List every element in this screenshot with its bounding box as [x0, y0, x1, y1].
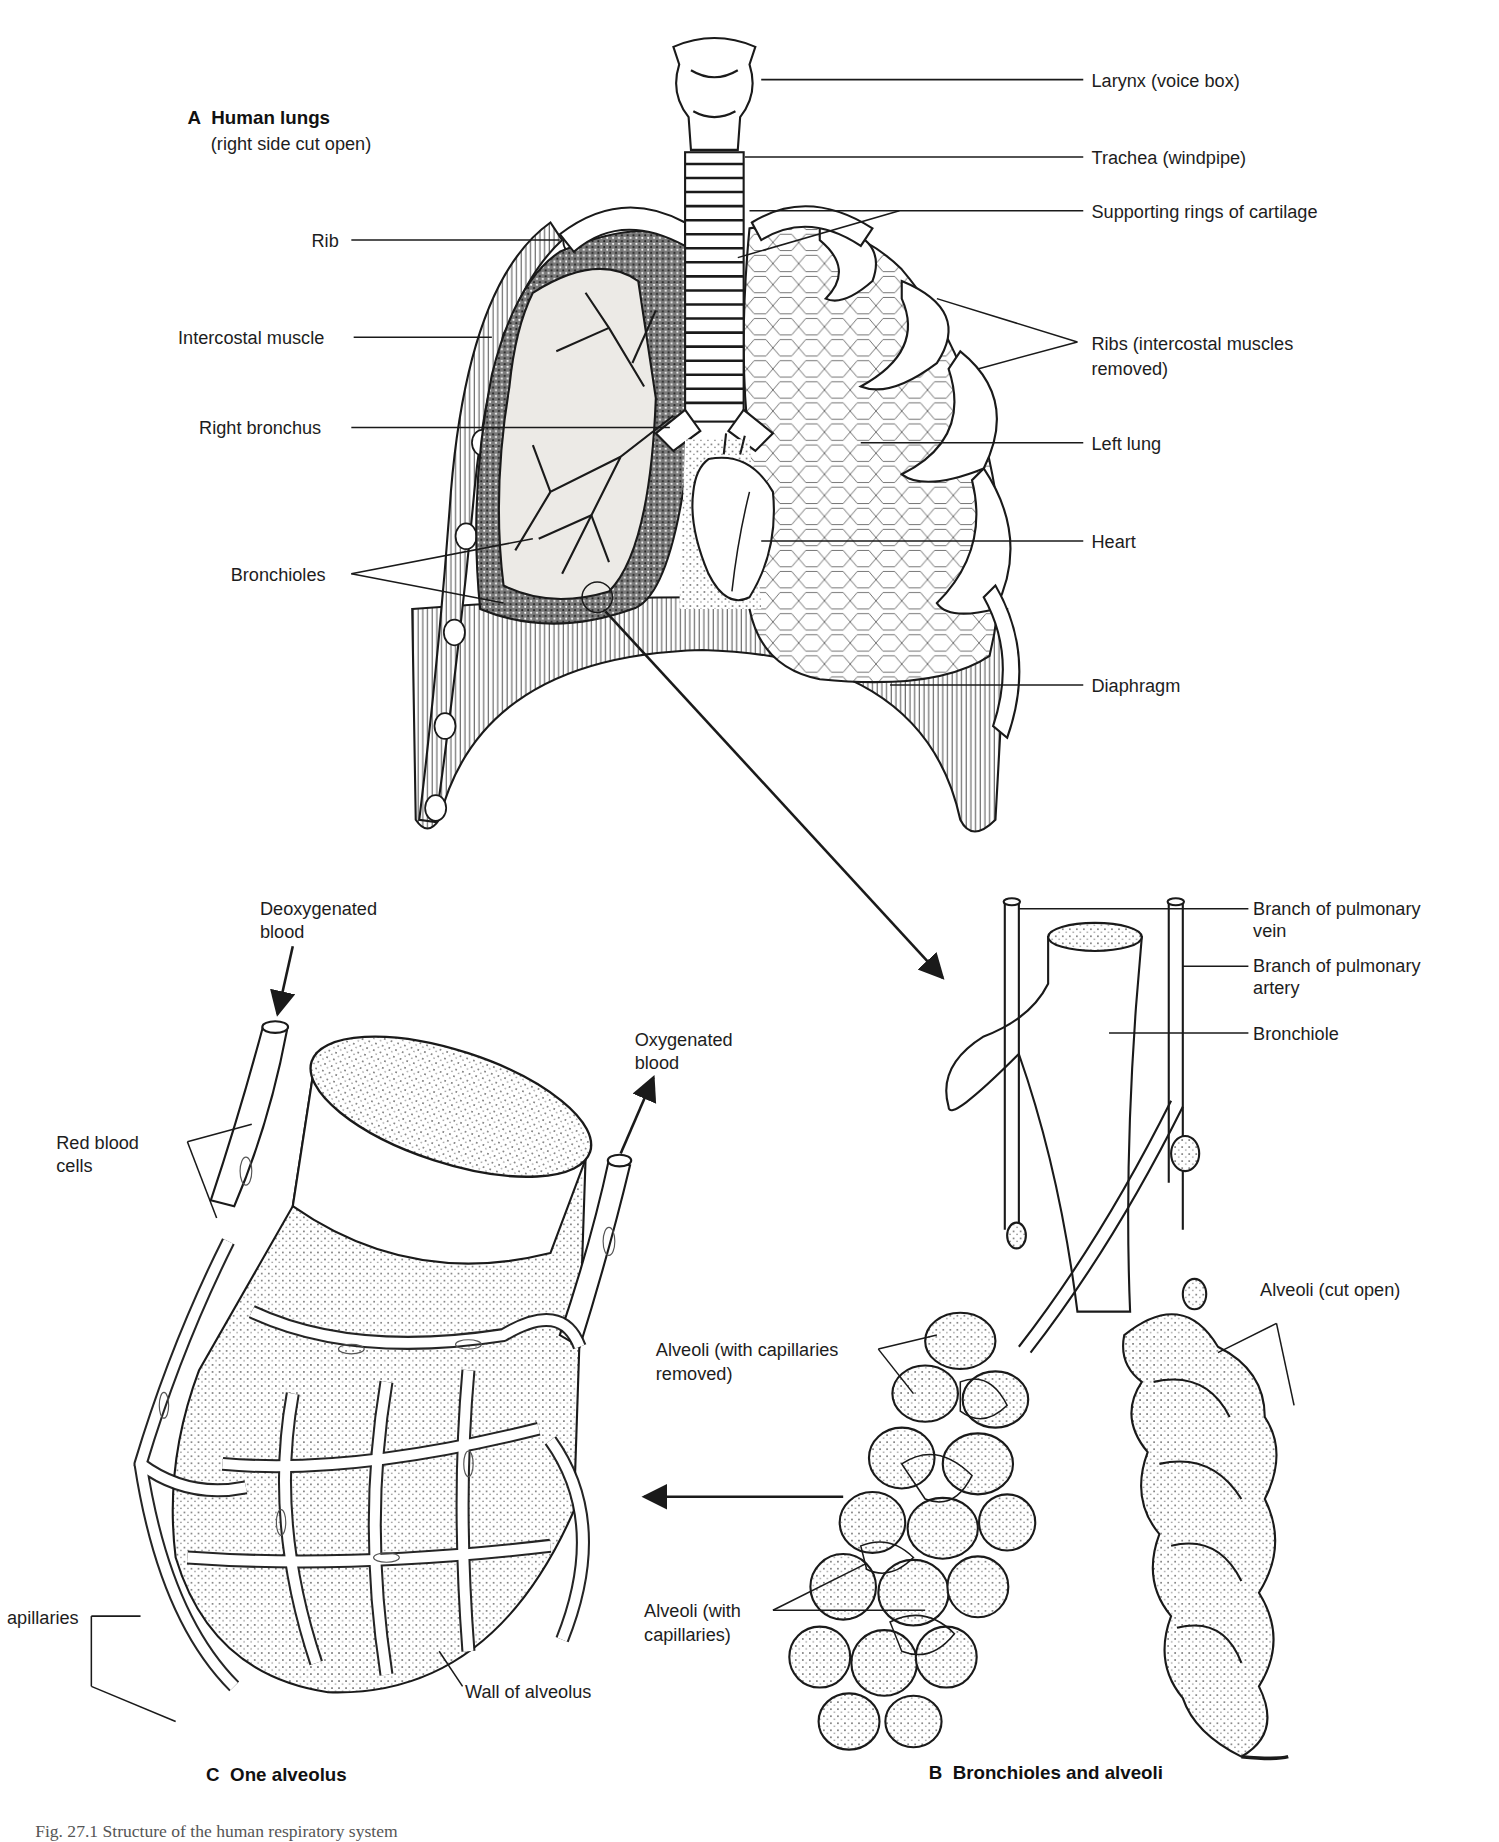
label-bronchiole: Bronchiole [1253, 1022, 1339, 1044]
panel-c-letter: C [206, 1765, 220, 1785]
label-alveoli-cut-open: Alveoli (cut open) [1260, 1279, 1400, 1301]
label-red-blood-cells-line2: cells [56, 1155, 92, 1177]
figure-caption: Fig. 27.1 Structure of the human respira… [35, 1822, 397, 1842]
label-wall-of-alveolus: Wall of alveolus [465, 1681, 591, 1703]
panel-b-bronchioles [789, 898, 1288, 1758]
label-rib: Rib [312, 230, 339, 252]
label-pulmonary-artery-line2: artery [1253, 977, 1299, 999]
label-right-bronchus: Right bronchus [199, 417, 321, 439]
label-deoxygenated-line2: blood [260, 920, 304, 942]
label-alveoli-with-line1: Alveoli (with [644, 1600, 741, 1622]
panel-a-title: A Human lungs [187, 108, 330, 129]
panel-c-alveolus [141, 946, 654, 1692]
label-larynx: Larynx (voice box) [1091, 69, 1239, 91]
label-left-lung: Left lung [1091, 432, 1161, 454]
label-pulmonary-artery-line1: Branch of pulmonary [1253, 954, 1421, 976]
label-pulmonary-vein-line2: vein [1253, 919, 1286, 941]
label-alveoli-with-line2: capillaries) [644, 1623, 731, 1645]
label-deoxygenated-line1: Deoxygenated [260, 897, 377, 919]
panel-a-letter: A [187, 108, 201, 128]
panel-b-title: B Bronchioles and alveoli [929, 1763, 1163, 1784]
label-diaphragm: Diaphragm [1091, 675, 1180, 697]
label-oxygenated-line1: Oxygenated [635, 1028, 733, 1050]
label-red-blood-cells-line1: Red blood [56, 1131, 139, 1153]
label-intercostal: Intercostal muscle [178, 327, 324, 349]
label-heart: Heart [1091, 531, 1135, 553]
panel-a-title-text: Human lungs [211, 108, 330, 128]
panel-a-subtitle: (right side cut open) [211, 134, 371, 155]
panel-b-title-text: Bronchioles and alveoli [953, 1763, 1163, 1783]
lung-anatomy-figure: A Human lungs (right side cut open) Lary… [0, 0, 1499, 1836]
label-oxygenated-line2: blood [635, 1052, 679, 1074]
label-trachea: Trachea (windpipe) [1091, 146, 1246, 168]
label-bronchioles: Bronchioles [231, 563, 326, 585]
label-cartilage: Supporting rings of cartilage [1091, 200, 1317, 222]
panel-b-letter: B [929, 1763, 943, 1783]
panel-c-title-text: One alveolus [230, 1765, 347, 1785]
label-pulmonary-vein-line1: Branch of pulmonary [1253, 897, 1421, 919]
label-alveoli-removed-line2: removed) [656, 1362, 733, 1384]
panel-c-title: C One alveolus [206, 1765, 347, 1786]
label-ribs-line2: removed) [1091, 357, 1168, 379]
label-alveoli-removed-line1: Alveoli (with capillaries [656, 1339, 839, 1361]
label-capillaries: apillaries [7, 1607, 79, 1629]
label-ribs-line1: Ribs (intercostal muscles [1091, 333, 1293, 355]
